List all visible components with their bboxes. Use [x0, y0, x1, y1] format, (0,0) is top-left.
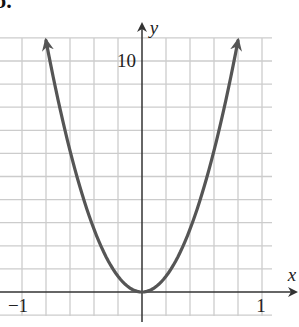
parabola-chart: −1110xy — [0, 0, 299, 327]
y-axis-label: y — [148, 17, 159, 38]
y-tick-label-10: 10 — [117, 50, 136, 71]
axes — [0, 24, 296, 322]
x-axis-label: x — [287, 264, 297, 285]
x-tick-label-neg1: −1 — [8, 295, 28, 316]
x-tick-label-1: 1 — [256, 295, 266, 316]
